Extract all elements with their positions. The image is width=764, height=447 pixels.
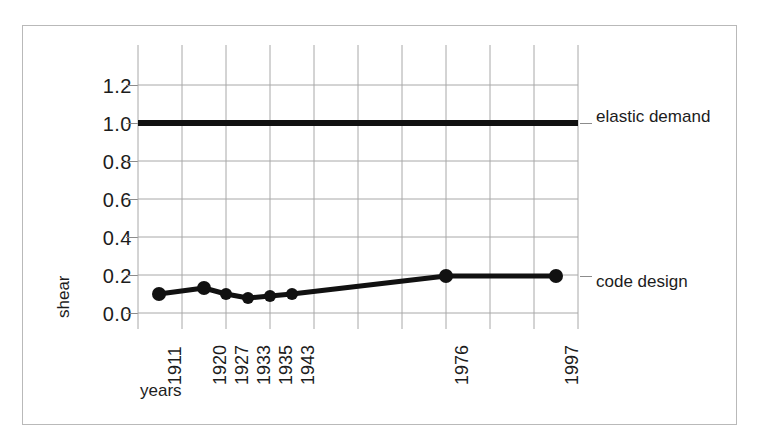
code-design-leader-line xyxy=(580,276,592,277)
data-point-1927 xyxy=(220,288,232,300)
series-label-elastic-demand: elastic demand xyxy=(596,107,710,127)
data-point-1976 xyxy=(439,269,453,283)
x-tick-label-1976: 1976 xyxy=(453,345,471,385)
y-tick-label-0-2: 0.2 xyxy=(103,266,132,286)
data-point-1943 xyxy=(286,288,298,300)
x-axis-title: years xyxy=(140,381,182,401)
y-tick-label-0-0: 0.0 xyxy=(103,304,132,324)
x-tick-label-1927: 1927 xyxy=(233,345,251,385)
data-point-1935 xyxy=(264,290,276,302)
y-tick-label-0-4: 0.4 xyxy=(103,228,132,248)
x-tick-label-1933: 1933 xyxy=(255,345,273,385)
y-axis-tick-labels: 1.2 1.0 0.8 0.6 0.4 0.2 0.0 xyxy=(76,0,132,447)
y-tick-label-1-2: 1.2 xyxy=(103,76,132,96)
series-code-design xyxy=(152,269,563,304)
data-point-1933 xyxy=(242,292,254,304)
y-tick-label-1-0: 1.0 xyxy=(103,114,132,134)
y-axis-title: shear xyxy=(54,275,74,318)
plot-area xyxy=(138,45,578,313)
x-tick-label-1935: 1935 xyxy=(277,345,295,385)
y-tick-label-0-8: 0.8 xyxy=(103,152,132,172)
series-label-code-design: code design xyxy=(596,272,688,292)
data-point-1920 xyxy=(197,281,211,295)
chart-series xyxy=(138,45,578,313)
x-tick-label-1943: 1943 xyxy=(299,345,317,385)
data-point-1911 xyxy=(152,287,166,301)
x-tick-label-1920: 1920 xyxy=(211,345,229,385)
x-tick-label-1911: 1911 xyxy=(166,346,184,385)
data-point-1997 xyxy=(549,269,563,283)
x-tick-label-1997: 1997 xyxy=(563,345,581,385)
elastic-demand-leader-line xyxy=(580,123,592,124)
y-tick-label-0-6: 0.6 xyxy=(103,190,132,210)
